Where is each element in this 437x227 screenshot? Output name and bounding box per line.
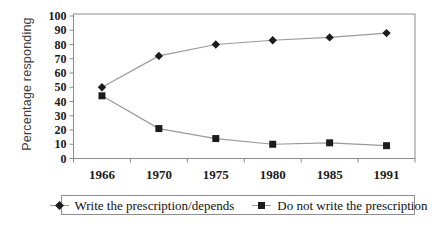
legend-item-donot: Do not write the prescription — [251, 199, 427, 212]
legend-item-write: Write the prescription/depends — [49, 199, 235, 212]
series-line-1 — [102, 96, 387, 146]
data-point-square — [326, 139, 333, 146]
data-point-square — [212, 135, 219, 142]
y-tick-label: 100 — [49, 9, 67, 23]
y-tick-label: 30 — [55, 109, 67, 123]
data-point-square — [98, 92, 105, 99]
x-axis-label: 1975 — [203, 167, 230, 182]
y-tick-label: 40 — [55, 95, 67, 109]
y-tick-label: 20 — [55, 123, 67, 137]
y-tick-label: 80 — [55, 38, 67, 52]
plot-area-border — [74, 14, 416, 159]
legend: Write the prescription/depends Do not wr… — [61, 195, 415, 215]
data-point-diamond — [155, 52, 163, 60]
diamond-marker-icon — [49, 200, 70, 211]
data-point-diamond — [382, 29, 390, 37]
data-point-square — [155, 125, 162, 132]
square-marker-icon — [251, 200, 272, 211]
data-point-diamond — [212, 40, 220, 48]
x-axis-label: 1985 — [317, 167, 344, 182]
y-tick-label: 70 — [55, 52, 67, 66]
y-tick-label: 0 — [61, 152, 67, 166]
legend-label-write: Write the prescription/depends — [75, 199, 235, 212]
chart-canvas: 0102030405060708090100196619701975198019… — [0, 0, 437, 227]
legend-label-donot: Do not write the prescription — [277, 199, 427, 212]
data-point-square — [383, 142, 390, 149]
data-point-diamond — [269, 36, 277, 44]
series-line-0 — [102, 33, 387, 87]
data-point-square — [269, 141, 276, 148]
y-tick-label: 10 — [55, 137, 67, 151]
x-axis-label: 1980 — [260, 167, 286, 182]
y-axis-title: Percentage responding — [20, 9, 36, 159]
y-tick-label: 90 — [55, 23, 67, 37]
data-point-diamond — [98, 83, 106, 91]
y-tick-label: 50 — [55, 80, 67, 94]
x-axis-label: 1970 — [146, 167, 172, 182]
data-point-diamond — [325, 33, 333, 41]
chart-figure: 0102030405060708090100196619701975198019… — [0, 0, 437, 227]
y-tick-label: 60 — [55, 66, 67, 80]
x-axis-label: 1966 — [89, 167, 116, 182]
x-axis-label: 1991 — [374, 167, 400, 182]
